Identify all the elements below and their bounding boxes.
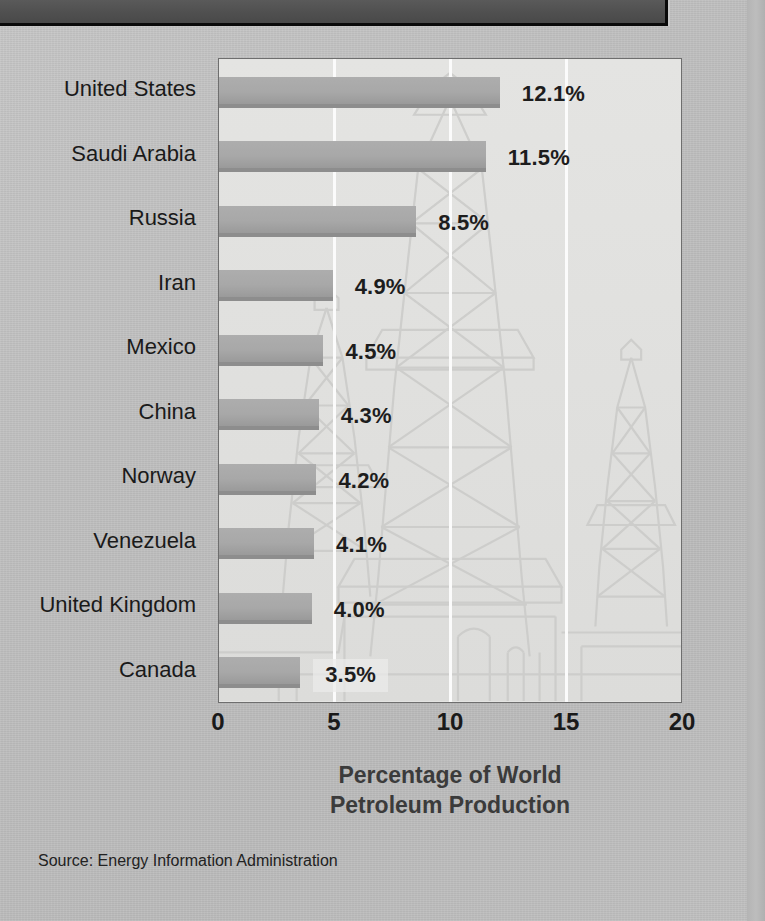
bar (219, 77, 500, 108)
x-axis-title: Percentage of World Petroleum Production (218, 760, 682, 821)
category-label: United Kingdom (0, 592, 208, 618)
bar-value-label: 3.5% (313, 659, 388, 692)
source-note: Source: Energy Information Administratio… (38, 852, 338, 870)
bar-value-label: 4.2% (338, 470, 389, 492)
bar (219, 270, 333, 301)
bar-value-label: 12.1% (522, 83, 585, 105)
x-tick-label: 5 (327, 708, 340, 736)
bar (219, 464, 316, 495)
category-label: Mexico (0, 334, 208, 360)
top-banner (0, 0, 668, 26)
category-label: United States (0, 76, 208, 102)
category-label: Canada (0, 657, 208, 683)
category-label: Russia (0, 205, 208, 231)
chart-plot-area: 12.1%11.5%8.5%4.9%4.5%4.3%4.2%4.1%4.0%3.… (218, 58, 682, 703)
bar-value-label: 4.9% (355, 276, 406, 298)
x-axis-ticks: 05101520 (218, 708, 682, 742)
x-tick-label: 10 (437, 708, 464, 736)
bar (219, 593, 312, 624)
category-label: Venezuela (0, 528, 208, 554)
bar-value-label: 4.1% (336, 534, 387, 556)
bar-value-label: 8.5% (438, 212, 489, 234)
x-tick-label: 15 (553, 708, 580, 736)
category-label: China (0, 399, 208, 425)
bar (219, 335, 323, 366)
bar (219, 206, 416, 237)
bar-value-label: 4.5% (345, 341, 396, 363)
x-tick-label: 20 (669, 708, 696, 736)
axis-title-line-2: Petroleum Production (218, 790, 682, 820)
right-page-strip (747, 0, 765, 921)
category-label: Saudi Arabia (0, 141, 208, 167)
bar-value-label: 4.0% (334, 599, 385, 621)
bar-value-label: 11.5% (508, 147, 570, 169)
category-label: Iran (0, 270, 208, 296)
bar (219, 399, 319, 430)
bar-value-label: 4.3% (341, 405, 392, 427)
category-label: Norway (0, 463, 208, 489)
x-tick-label: 0 (211, 708, 224, 736)
bar (219, 657, 300, 688)
axis-title-line-1: Percentage of World (218, 760, 682, 790)
bar (219, 141, 486, 172)
bar (219, 528, 314, 559)
